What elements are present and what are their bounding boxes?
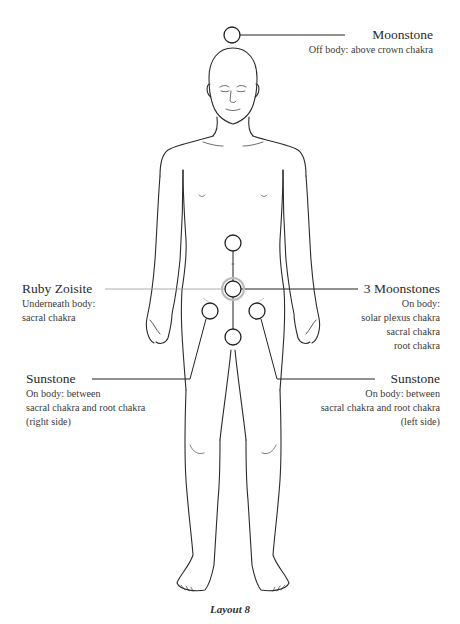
ruby-zoisite-label-line-1: Underneath body:	[22, 297, 95, 311]
three-moonstones-label-name: 3 Moonstones	[361, 280, 440, 297]
sunstone-right-label-line-2: sacral chakra and root chakra	[26, 401, 145, 415]
ruby-zoisite-label: Ruby Zoisite Underneath body: sacral cha…	[22, 280, 95, 325]
three-moonstones-label: 3 Moonstones On body: solar plexus chakr…	[361, 280, 440, 353]
three-moonstones-label-line-4: root chakra	[361, 339, 440, 353]
three-moonstones-label-line-3: sacral chakra	[361, 325, 440, 339]
three-moonstones-label-line-2: solar plexus chakra	[361, 311, 440, 325]
three-moonstones-label-line-1: On body:	[361, 297, 440, 311]
moonstone-label-line-1: Off body: above crown chakra	[309, 43, 433, 57]
sunstone-left-label-line-1: On body: between	[321, 387, 440, 401]
sunstone-right-label: Sunstone On body: between sacral chakra …	[26, 370, 145, 429]
moonstone-crown-stone	[224, 27, 240, 43]
moonstone-label: Moonstone Off body: above crown chakra	[309, 26, 433, 57]
sunstone-left-label: Sunstone On body: between sacral chakra …	[321, 370, 440, 429]
figure-caption: Layout 8	[0, 603, 460, 615]
sunstone-left-label-line-2: sacral chakra and root chakra	[321, 401, 440, 415]
sunstone-right-label-name: Sunstone	[26, 370, 145, 387]
ruby-zoisite-label-line-2: sacral chakra	[22, 311, 95, 325]
sunstone-right-stone	[202, 303, 218, 319]
moonstone-sacral-stone	[225, 281, 241, 297]
moonstone-label-name: Moonstone	[309, 26, 433, 43]
sunstone-right-label-line-3: (right side)	[26, 415, 145, 429]
sunstone-left-label-name: Sunstone	[321, 370, 440, 387]
diagram-stage: Moonstone Off body: above crown chakra R…	[0, 0, 460, 624]
sunstone-left-stone	[249, 303, 265, 319]
sunstone-right-label-line-1: On body: between	[26, 387, 145, 401]
stones	[202, 27, 265, 345]
moonstone-solar-plexus-stone	[225, 235, 241, 251]
sunstone-left-label-line-3: (left side)	[321, 415, 440, 429]
ruby-zoisite-label-name: Ruby Zoisite	[22, 280, 95, 297]
moonstone-root-stone	[225, 329, 241, 345]
leader-lines	[92, 35, 375, 379]
